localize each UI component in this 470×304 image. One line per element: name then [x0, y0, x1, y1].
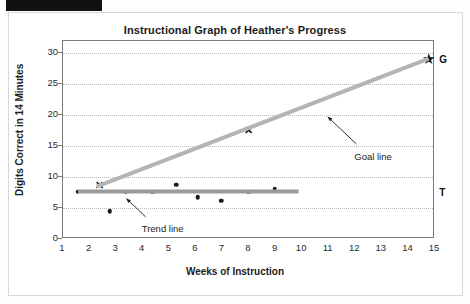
x-tick-label: 2 [79, 242, 99, 253]
data-point-dot [195, 195, 200, 200]
data-point-dot [272, 186, 277, 191]
data-point-dot [246, 189, 251, 194]
gridline [63, 177, 433, 178]
data-point-dot [108, 209, 113, 214]
x-tick-label: 8 [238, 242, 258, 253]
goal-line-annotation: Goal line [354, 151, 392, 162]
x-tick-label: 10 [291, 242, 311, 253]
plot-inner [63, 41, 433, 237]
x-tick-label: 11 [318, 242, 338, 253]
data-point-x: ✕ [95, 179, 104, 190]
screenshot-root: Instructional Graph of Heather's Progres… [0, 0, 470, 304]
plot-area [62, 40, 434, 238]
y-tick-label: 15 [38, 139, 58, 150]
goal-label: G [439, 53, 447, 64]
gridline [63, 146, 433, 147]
x-tick-label: 12 [344, 242, 364, 253]
y-tick-label: 5 [38, 201, 58, 212]
data-point-dot [76, 189, 81, 194]
data-point-dot [174, 183, 179, 188]
gridline [63, 208, 433, 209]
y-axis-title: Digits Correct in 14 Minutes [14, 64, 25, 196]
gridline [63, 84, 433, 85]
gridline [63, 115, 433, 116]
y-tick-label: 20 [38, 108, 58, 119]
y-tick-label: 10 [38, 170, 58, 181]
x-axis-title: Weeks of Instruction [0, 266, 470, 277]
trend-line-annotation: Trend line [142, 223, 184, 234]
gridline [63, 53, 433, 54]
x-tick-label: 9 [265, 242, 285, 253]
y-tick-label: 25 [38, 77, 58, 88]
data-point-dot [150, 189, 155, 194]
x-tick-label: 6 [185, 242, 205, 253]
x-tick-label: 13 [371, 242, 391, 253]
x-tick-label: 1 [52, 242, 72, 253]
x-tick-label: 4 [132, 242, 152, 253]
chart-title: Instructional Graph of Heather's Progres… [0, 24, 470, 36]
data-point-x: ✕ [244, 124, 253, 135]
y-tick-label: 30 [38, 46, 58, 57]
data-point-dot [219, 199, 224, 204]
data-point-dot [124, 189, 129, 194]
y-tick-mark [58, 238, 62, 239]
x-tick-label: 5 [158, 242, 178, 253]
x-tick-label: 3 [105, 242, 125, 253]
goal-star-icon: ★ [422, 51, 435, 66]
x-tick-label: 15 [424, 242, 444, 253]
target-label: T [439, 186, 445, 197]
redaction-bar [6, 0, 102, 11]
x-tick-label: 14 [397, 242, 417, 253]
x-tick-label: 7 [211, 242, 231, 253]
